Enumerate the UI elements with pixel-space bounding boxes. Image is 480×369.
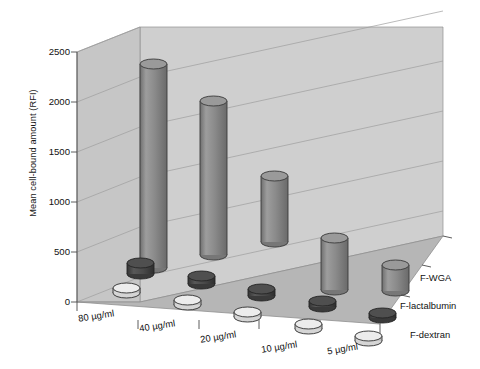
bar-f-wga-80 [140,59,167,273]
chart-figure: Mean cell-bound amount (RFI) 2500 2000 1… [0,0,480,369]
disc-f-lactalbumin-20 [248,284,275,301]
disc-f-dextran-80 [113,283,140,298]
bar-f-wga-40 [200,96,227,260]
bar-f-wga-5 [382,260,409,296]
disc-f-dextran-40 [174,295,201,310]
disc-f-lactalbumin-80 [127,258,154,279]
bar-f-wga-10 [321,233,348,295]
plot-area [0,0,480,369]
series-label-f-dextran: F-dextran [410,329,450,340]
disc-f-lactalbumin-5 [369,308,396,323]
disc-f-dextran-10 [295,319,322,334]
disc-f-dextran-20 [234,307,261,322]
bar-f-wga-20 [261,171,288,247]
disc-f-lactalbumin-10 [309,296,336,312]
series-label-f-lactalbumin: F-lactalbumin [400,300,456,311]
series-label-f-wga: F-WGA [420,272,451,283]
disc-f-lactalbumin-40 [188,271,215,289]
disc-f-dextran-5 [355,331,382,346]
y-axis [71,52,77,302]
